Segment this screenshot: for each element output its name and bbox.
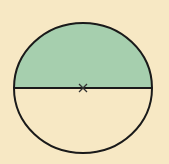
diagram-canvas (0, 0, 169, 164)
circle-diagram (0, 0, 169, 164)
